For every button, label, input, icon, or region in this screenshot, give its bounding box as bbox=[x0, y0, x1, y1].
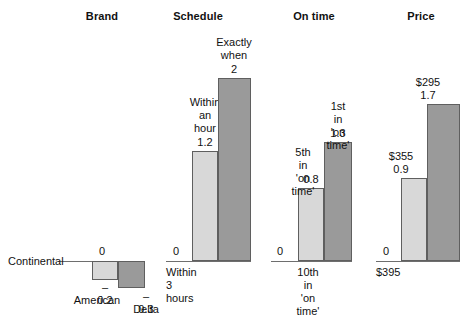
bar-price-295[interactable] bbox=[427, 104, 460, 261]
bar-value-price-355: 0.9 bbox=[393, 163, 408, 176]
bar-ontime-first[interactable] bbox=[324, 142, 352, 261]
bar-value-ontime-first: 1.3 bbox=[330, 127, 345, 140]
attribute-utility-chart: Brand Schedule On time Price 0 Continent… bbox=[0, 0, 470, 333]
baseline-schedule bbox=[166, 261, 251, 262]
bar-label-brand-delta: Delta bbox=[133, 303, 159, 316]
group-header-brand: Brand bbox=[86, 10, 118, 22]
bar-schedule-within-hour[interactable] bbox=[192, 151, 218, 261]
anchor-label-continental: Continental bbox=[8, 255, 64, 268]
bar-label-price-355: $355 bbox=[389, 150, 413, 163]
zero-label-brand: 0 bbox=[99, 245, 105, 257]
bar-price-355[interactable] bbox=[401, 178, 427, 261]
bar-label-schedule-within-hour: Within an hour bbox=[190, 96, 221, 135]
anchor-label-tenth-ontime: 10th in 'on time' bbox=[297, 266, 320, 318]
anchor-label-395: $395 bbox=[376, 266, 400, 279]
baseline-ontime bbox=[271, 261, 352, 262]
zero-label-schedule: 0 bbox=[173, 245, 179, 257]
bar-value-price-295: 1.7 bbox=[420, 89, 435, 102]
bar-brand-delta[interactable] bbox=[118, 261, 145, 288]
bar-label-price-295: $295 bbox=[416, 76, 440, 89]
bar-label-schedule-exactly-when: Exactly when bbox=[216, 36, 251, 62]
anchor-label-within-3hours: Within 3 hours bbox=[166, 266, 197, 305]
bar-label-brand-american: American bbox=[74, 294, 120, 307]
bar-label-ontime-fifth: 5th in 'on time' bbox=[292, 146, 315, 198]
bar-value-ontime-fifth: 0.8 bbox=[303, 173, 318, 186]
bar-brand-american[interactable] bbox=[92, 261, 118, 280]
bar-label-ontime-first: 1st in 'on time' bbox=[327, 100, 350, 152]
bar-value-schedule-exactly-when: 2 bbox=[231, 63, 237, 76]
group-header-schedule: Schedule bbox=[173, 10, 223, 22]
group-header-price: Price bbox=[407, 10, 434, 22]
bar-ontime-fifth[interactable] bbox=[298, 188, 324, 261]
bar-schedule-exactly-when[interactable] bbox=[218, 78, 251, 261]
bar-value-schedule-within-hour: 1.2 bbox=[197, 136, 212, 149]
zero-label-ontime: 0 bbox=[277, 245, 283, 257]
baseline-price bbox=[376, 261, 460, 262]
zero-label-price: 0 bbox=[383, 245, 389, 257]
group-header-ontime: On time bbox=[293, 10, 335, 22]
